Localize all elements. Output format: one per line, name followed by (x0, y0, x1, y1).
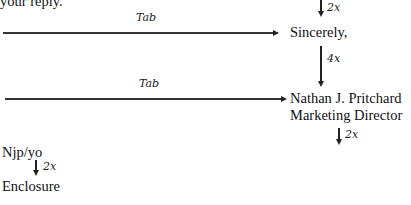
tab-arrowhead-1 (273, 30, 279, 36)
spacing-label-2x-initials: 2x (43, 161, 56, 173)
signer-name: Nathan J. Pritchard (290, 90, 402, 106)
intro-text-fragment: your reply. (0, 0, 63, 9)
tab-arrowhead-2 (281, 96, 287, 102)
tab-arrow-line-2 (5, 98, 281, 100)
signer-title: Marketing Director (290, 107, 402, 123)
reference-initials: Njp/yo (2, 144, 42, 160)
spacing-label-4x: 4x (327, 53, 340, 65)
tab-annotation-1: Tab (136, 12, 156, 24)
tab-annotation-2: Tab (139, 78, 159, 90)
spacing-label-2x-top: 2x (327, 2, 340, 14)
enclosure-notation: Enclosure (2, 178, 60, 194)
closing-text: Sincerely, (290, 24, 347, 40)
spacing-arrowhead-4x (318, 81, 324, 87)
spacing-arrowhead-2x-top (318, 11, 324, 17)
spacing-arrowhead-2x-initials (33, 170, 39, 176)
tab-arrow-line-1 (3, 32, 273, 34)
spacing-arrow-4x (320, 46, 322, 82)
spacing-label-2x-title: 2x (345, 129, 358, 141)
spacing-arrowhead-2x-title (336, 139, 342, 145)
